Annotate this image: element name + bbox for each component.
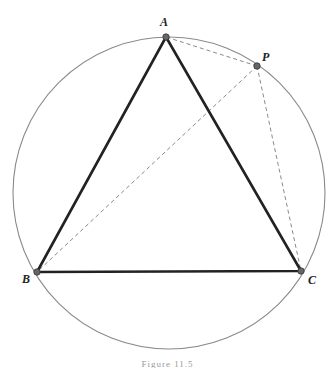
label-c: C [308, 273, 317, 287]
point-a [163, 34, 169, 40]
point-b [34, 269, 40, 275]
label-a: A [159, 15, 168, 29]
points [34, 34, 304, 275]
dashed-segments [37, 37, 301, 272]
point-c [298, 268, 304, 274]
geometry-figure: A P B C [0, 0, 335, 368]
dashed-segment-pc [257, 66, 301, 271]
point-p [254, 63, 260, 69]
label-p: P [262, 50, 270, 64]
dashed-segment-pb [37, 66, 257, 272]
circumcircle [13, 37, 325, 349]
diagram-canvas: A P B C Figure 11.5 [0, 0, 335, 368]
equilateral-triangle-abc [37, 37, 301, 272]
figure-caption: Figure 11.5 [0, 359, 335, 368]
label-b: B [21, 272, 30, 286]
